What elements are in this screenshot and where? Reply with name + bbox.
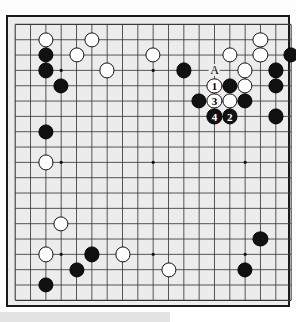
- move-number-1: 1: [212, 81, 218, 92]
- move-number-4: 4: [212, 111, 218, 122]
- star-point: [152, 161, 155, 164]
- star-point: [60, 253, 63, 256]
- star-point: [244, 161, 247, 164]
- star-point: [152, 69, 155, 72]
- star-point: [244, 253, 247, 256]
- move-number-2: 2: [227, 111, 233, 122]
- move-number-3: 3: [212, 96, 218, 107]
- point-label-A: A: [209, 64, 220, 76]
- bottom-shadow-band: [0, 312, 170, 322]
- star-point: [152, 253, 155, 256]
- star-point: [60, 161, 63, 164]
- black-stone[interactable]: [284, 47, 296, 62]
- star-point: [60, 69, 63, 72]
- go-diagram-page: 1234A: [0, 0, 296, 322]
